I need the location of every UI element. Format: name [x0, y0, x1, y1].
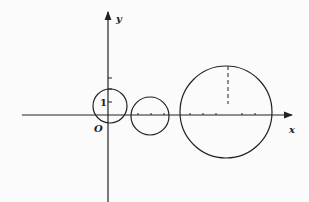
y-axis-label: y: [115, 13, 123, 24]
medium-circle: [131, 97, 169, 135]
large-circle: [180, 66, 272, 158]
small-circle: [93, 89, 127, 123]
unit-label: 1: [100, 97, 107, 108]
x-axis-label: x: [288, 124, 296, 135]
coordinate-diagram: y x O 1: [0, 0, 309, 202]
origin-label: O: [94, 123, 103, 134]
